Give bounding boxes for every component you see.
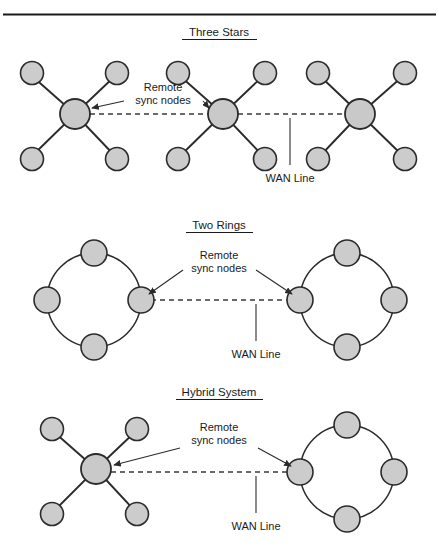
hub-sync-node[interactable] bbox=[208, 99, 238, 129]
ring-node[interactable] bbox=[334, 412, 360, 438]
hub-sync-node[interactable] bbox=[345, 99, 375, 129]
wan-line-label: WAN Line bbox=[231, 520, 280, 532]
callout-arrow-left bbox=[149, 270, 183, 294]
star-group-2 bbox=[167, 62, 277, 171]
leaf-node[interactable] bbox=[126, 503, 149, 526]
ring-node[interactable] bbox=[81, 334, 107, 360]
leaf-node[interactable] bbox=[106, 62, 129, 85]
callout-arrow-left bbox=[114, 448, 180, 465]
leaf-node[interactable] bbox=[21, 62, 44, 85]
hub-sync-node[interactable] bbox=[81, 454, 111, 484]
wan-line-label: WAN Line bbox=[231, 348, 280, 360]
remote-sync-label-line1: Remote bbox=[200, 421, 239, 433]
ring-node[interactable] bbox=[334, 334, 360, 360]
leaf-node[interactable] bbox=[307, 148, 330, 171]
callout-arrow-left bbox=[92, 101, 124, 108]
remote-sync-label-line2: sync nodes bbox=[191, 434, 247, 446]
section-three-stars: Three Stars bbox=[21, 26, 417, 184]
ring-group-1 bbox=[34, 240, 154, 360]
ring-sync-node[interactable] bbox=[128, 287, 154, 313]
section-title-two-rings: Two Rings bbox=[192, 219, 246, 231]
leaf-node[interactable] bbox=[394, 148, 417, 171]
leaf-node[interactable] bbox=[106, 148, 129, 171]
ring-node[interactable] bbox=[334, 506, 360, 532]
ring-node[interactable] bbox=[81, 240, 107, 266]
leaf-node[interactable] bbox=[41, 503, 64, 526]
section-hybrid-system: Hybrid System bbox=[41, 386, 408, 532]
callout-arrow-right bbox=[256, 270, 292, 294]
section-two-rings: Two Rings Remote sync no bbox=[34, 219, 407, 360]
section-title-hybrid-system: Hybrid System bbox=[182, 386, 257, 398]
remote-sync-label-line1: Remote bbox=[200, 249, 239, 261]
ring-group-2 bbox=[287, 240, 407, 360]
ring-group-1 bbox=[287, 412, 407, 532]
star-group-3 bbox=[307, 62, 417, 171]
ring-sync-node[interactable] bbox=[287, 459, 313, 485]
leaf-node[interactable] bbox=[394, 62, 417, 85]
ring-node[interactable] bbox=[34, 287, 60, 313]
leaf-node[interactable] bbox=[254, 148, 277, 171]
ring-path bbox=[300, 425, 394, 519]
leaf-node[interactable] bbox=[167, 148, 190, 171]
ring-sync-node[interactable] bbox=[287, 287, 313, 313]
remote-sync-label-line1: Remote bbox=[144, 81, 183, 93]
ring-node[interactable] bbox=[381, 287, 407, 313]
leaf-node[interactable] bbox=[41, 418, 64, 441]
leaf-node[interactable] bbox=[21, 148, 44, 171]
section-title-three-stars: Three Stars bbox=[189, 26, 249, 38]
leaf-node[interactable] bbox=[307, 62, 330, 85]
remote-sync-label-line2: sync nodes bbox=[191, 262, 247, 274]
ring-path bbox=[47, 253, 141, 347]
star-group-1 bbox=[21, 62, 129, 171]
leaf-node[interactable] bbox=[254, 62, 277, 85]
hub-sync-node[interactable] bbox=[60, 99, 90, 129]
remote-sync-label-line2: sync nodes bbox=[135, 94, 191, 106]
ring-node[interactable] bbox=[334, 240, 360, 266]
diagram-page: Three Stars bbox=[0, 0, 439, 555]
callout-arrow-right bbox=[258, 448, 291, 466]
ring-path bbox=[300, 253, 394, 347]
wan-line-label: WAN Line bbox=[265, 172, 314, 184]
leaf-node[interactable] bbox=[126, 418, 149, 441]
topology-diagram: Three Stars bbox=[0, 0, 439, 555]
ring-node[interactable] bbox=[381, 459, 407, 485]
